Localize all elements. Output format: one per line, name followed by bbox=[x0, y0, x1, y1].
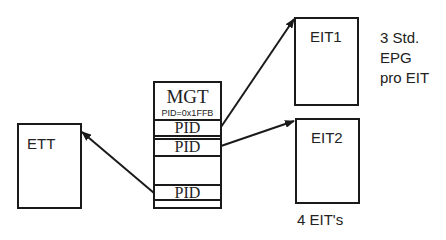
arrows-layer bbox=[0, 0, 446, 240]
arrow-mgt-to-eit2 bbox=[221, 121, 294, 146]
arrow-mgt-to-eit1 bbox=[221, 19, 294, 127]
arrow-mgt-to-ett bbox=[82, 132, 154, 193]
